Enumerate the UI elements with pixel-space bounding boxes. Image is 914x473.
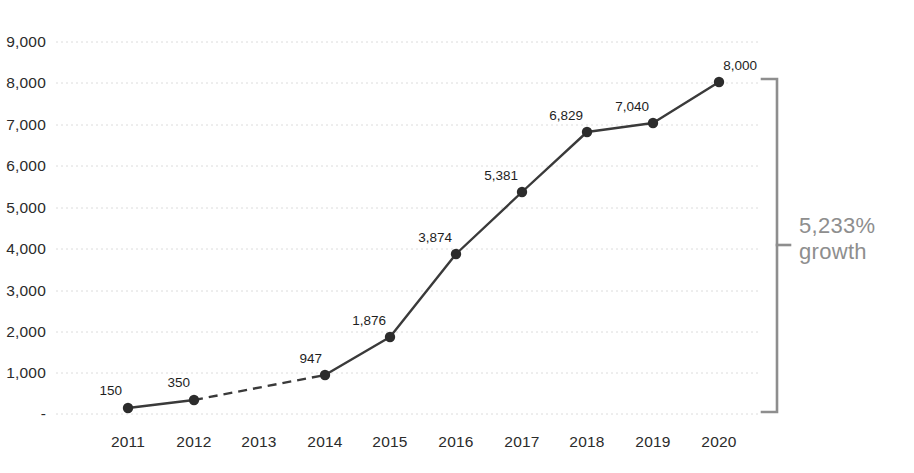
x-tick-2015: 2015 <box>372 433 407 451</box>
x-tick-2016: 2016 <box>438 433 473 451</box>
growth-annotation-line1: 5,233% <box>799 213 875 239</box>
data-point-2012 <box>189 395 199 405</box>
x-tick-2014: 2014 <box>307 433 342 451</box>
data-label-2015: 1,876 <box>352 313 386 328</box>
line-chart: 9,000 8,000 7,000 6,000 5,000 4,000 3,00… <box>0 0 914 473</box>
data-point-2015 <box>385 332 395 342</box>
data-label-2018: 6,829 <box>549 108 583 123</box>
y-tick-1000: 1,000 <box>0 364 46 382</box>
growth-annotation-line2: growth <box>799 239 867 265</box>
data-point-2018 <box>582 127 592 137</box>
y-tick-0: - <box>0 405 46 423</box>
series-line-solid-early <box>128 400 194 408</box>
data-point-2017 <box>517 187 527 197</box>
data-label-2017: 5,381 <box>484 168 518 183</box>
y-tick-5000: 5,000 <box>0 199 46 217</box>
chart-plot-area <box>0 0 914 473</box>
data-point-2019 <box>648 118 658 128</box>
series-markers <box>123 77 724 413</box>
x-tick-2018: 2018 <box>569 433 604 451</box>
x-tick-2017: 2017 <box>504 433 539 451</box>
series-line-solid-late <box>325 82 719 375</box>
y-tick-6000: 6,000 <box>0 157 46 175</box>
data-label-2012: 350 <box>167 375 190 390</box>
growth-bracket-icon <box>762 79 790 412</box>
data-point-2016 <box>451 249 461 259</box>
x-tick-2011: 2011 <box>111 433 145 451</box>
y-tick-9000: 9,000 <box>0 33 46 51</box>
y-tick-7000: 7,000 <box>0 116 46 134</box>
x-tick-2013: 2013 <box>241 433 276 451</box>
data-point-2014 <box>320 370 330 380</box>
gridlines <box>56 42 758 414</box>
data-label-2011: 150 <box>99 383 122 398</box>
y-tick-2000: 2,000 <box>0 323 46 341</box>
data-label-2020: 8,000 <box>723 58 757 73</box>
y-tick-3000: 3,000 <box>0 282 46 300</box>
series-line-dashed-2012-2014 <box>194 375 325 400</box>
data-label-2014: 947 <box>299 351 322 366</box>
data-label-2019: 7,040 <box>615 99 649 114</box>
y-tick-4000: 4,000 <box>0 240 46 258</box>
data-point-2011 <box>123 403 133 413</box>
x-tick-2019: 2019 <box>635 433 670 451</box>
x-tick-2012: 2012 <box>176 433 211 451</box>
x-tick-2020: 2020 <box>701 433 736 451</box>
y-tick-8000: 8,000 <box>0 74 46 92</box>
data-point-2020 <box>714 77 724 87</box>
data-label-2016: 3,874 <box>418 230 452 245</box>
